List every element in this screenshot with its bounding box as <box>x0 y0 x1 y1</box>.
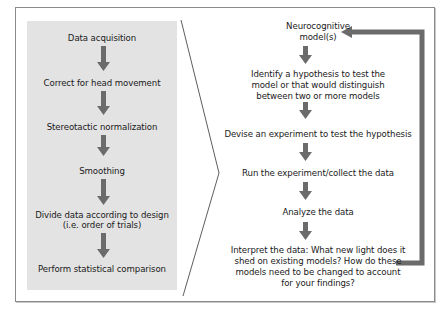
step-head-movement: Correct for head movement <box>27 78 177 89</box>
step-divide-data-note: (i.e. order of trials) <box>27 220 177 231</box>
step-interpret-data-2: shed on existing models? How do these <box>218 256 418 267</box>
arrow-down-icon <box>299 143 312 161</box>
step-normalization: Stereotactic normalization <box>27 122 177 133</box>
step-data-acquisition: Data acquisition <box>27 33 177 44</box>
step-statistical-comparison: Perform statistical comparison <box>27 264 177 275</box>
feedback-loop-arrow <box>341 26 422 263</box>
arrow-down-icon <box>299 222 312 240</box>
step-neurocognitive-model-2: model(s) <box>218 32 418 43</box>
arrow-down-icon <box>97 233 110 258</box>
step-smoothing: Smoothing <box>27 166 177 177</box>
step-interpret-data-4: for your findings? <box>218 278 418 289</box>
step-identify-hypothesis-2: model or that would distinguish <box>218 80 418 91</box>
step-run-experiment: Run the experiment/collect the data <box>218 168 418 179</box>
step-neurocognitive-model: Neurocognitive <box>218 21 418 32</box>
arrow-down-icon <box>97 91 110 115</box>
arrow-down-icon <box>299 182 312 200</box>
step-identify-hypothesis: Identify a hypothesis to test the <box>218 69 418 80</box>
arrow-down-icon <box>299 46 312 64</box>
chevron-divider <box>181 20 219 296</box>
step-analyze-data: Analyze the data <box>218 207 418 218</box>
step-interpret-data: Interpret the data: What new light does … <box>218 245 418 256</box>
arrow-down-icon <box>97 46 110 71</box>
step-devise-experiment: Devise an experiment to test the hypothe… <box>218 129 418 140</box>
step-identify-hypothesis-3: between two or more models <box>218 91 418 102</box>
arrow-down-icon <box>97 135 110 156</box>
step-interpret-data-3: models need to be changed to account <box>218 267 418 278</box>
arrow-down-icon <box>97 179 110 205</box>
step-divide-data: Divide data according to design <box>27 210 177 221</box>
arrow-down-icon <box>299 102 312 119</box>
